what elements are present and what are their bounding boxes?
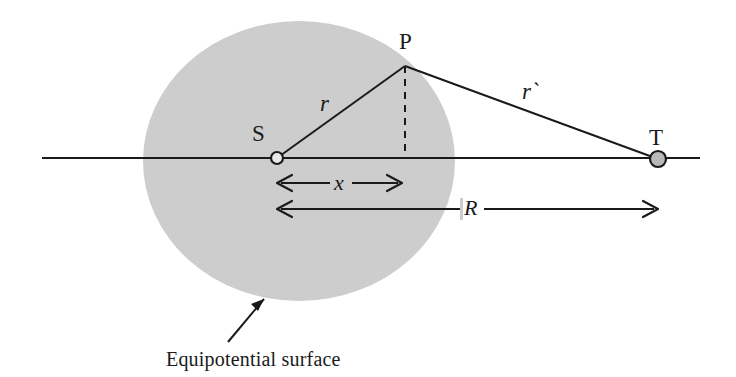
- segment-r-label: r: [320, 92, 329, 115]
- point-s-label: S: [252, 122, 265, 145]
- equipotential-surface-shape: [143, 21, 455, 301]
- point-t-marker: [650, 151, 666, 167]
- measure-x-label: x: [334, 172, 344, 194]
- point-p-label: P: [399, 30, 412, 53]
- diagram-canvas: [0, 0, 736, 377]
- point-s-marker: [271, 152, 283, 164]
- equipotential-surface-figure: S P T r r` x R Equipotential surface: [0, 0, 736, 377]
- caption-pointer-arrow: [228, 299, 264, 342]
- segment-r-prime-label: r`: [522, 80, 539, 103]
- measure-R-label: R: [464, 197, 477, 219]
- point-t-label: T: [649, 126, 663, 149]
- equipotential-surface-caption: Equipotential surface: [166, 349, 341, 369]
